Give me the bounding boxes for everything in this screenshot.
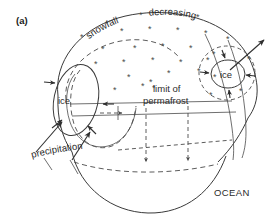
label-snowfall-text: snowfall xyxy=(84,14,120,41)
snowflake-icon: * xyxy=(133,43,137,53)
snowflake-icon: * xyxy=(120,26,124,36)
snowflake-icon: * xyxy=(101,44,105,54)
snowflake-icon: * xyxy=(226,34,230,44)
snowflake-icon: * xyxy=(197,66,201,76)
snowflake-icon: * xyxy=(176,25,180,35)
snowflake-icon: * xyxy=(151,55,155,65)
snowflake-icon: * xyxy=(179,57,183,67)
label-precipitation-text: precipitation xyxy=(30,140,83,160)
label-decreasing: decreasing xyxy=(148,6,197,21)
label-snowfall: snowfall xyxy=(84,14,120,41)
panel-label: (a) xyxy=(16,15,28,26)
ice-dome-left xyxy=(47,60,105,140)
snowflake-icon: * xyxy=(127,72,131,82)
snowflake-icon: * xyxy=(206,55,210,65)
snowflake-icon: * xyxy=(94,59,98,69)
label-permafrost: permafrost xyxy=(143,95,189,106)
snowflake-icon: * xyxy=(139,10,143,20)
snowflake-icon: * xyxy=(212,49,216,59)
snowflake-icon: * xyxy=(209,90,213,100)
snowflake-icon: * xyxy=(122,57,126,67)
label-precipitation: precipitation xyxy=(30,140,83,160)
label-ice-right: ice xyxy=(220,69,232,80)
label-ocean: OCEAN xyxy=(214,187,250,198)
snowflake-icon: * xyxy=(239,86,243,96)
snowflake-icon: * xyxy=(167,68,171,78)
snowflake-icon: * xyxy=(161,41,165,51)
snowflake-icon: * xyxy=(247,54,251,64)
snowflake-icon: * xyxy=(80,32,84,42)
label-limit-of: limit of xyxy=(153,83,181,94)
snowflake-icon: * xyxy=(113,85,117,95)
snowflake-icon: * xyxy=(213,72,217,82)
snowflake-icon: * xyxy=(189,43,193,53)
figure-panel: **************************** (a) snowfal… xyxy=(0,0,270,222)
snowflake-icon: * xyxy=(148,24,152,34)
label-decreasing-text: decreasing xyxy=(148,6,197,21)
schematic-diagram: **************************** (a) snowfal… xyxy=(0,0,270,222)
label-ice-left: ice xyxy=(58,95,70,106)
snowflake-icon: * xyxy=(204,28,208,38)
snowflake-icon: * xyxy=(141,81,145,91)
